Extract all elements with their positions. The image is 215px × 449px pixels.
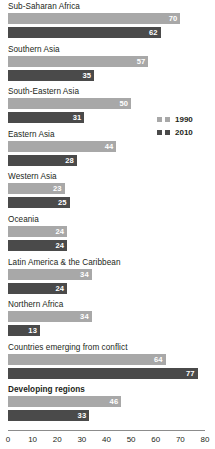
x-tick-label: 60 bbox=[151, 435, 160, 444]
legend-item-2010: 2010 bbox=[157, 127, 215, 140]
bar-2010: 31 bbox=[8, 112, 84, 123]
bar-group: Countries emerging from conflict6477 bbox=[0, 343, 215, 386]
bar-2010: 25 bbox=[8, 197, 70, 208]
bar-2010: 62 bbox=[8, 27, 161, 38]
bar-value-label: 35 bbox=[83, 70, 92, 81]
bar-value-label: 24 bbox=[55, 226, 64, 237]
x-tick-label: 20 bbox=[53, 435, 62, 444]
legend-swatch bbox=[157, 130, 162, 135]
bar-group: Latin America & the Caribbean3424 bbox=[0, 258, 215, 301]
x-axis-line bbox=[8, 430, 205, 431]
category-label: Eastern Asia bbox=[8, 130, 55, 139]
bar-value-label: 64 bbox=[154, 354, 163, 365]
bar-group: Sub-Saharan Africa7062 bbox=[0, 2, 215, 45]
bar-value-label: 44 bbox=[105, 141, 114, 152]
bar-1990: 23 bbox=[8, 183, 65, 194]
bar-value-label: 24 bbox=[55, 240, 64, 251]
legend-label: 1990 bbox=[175, 114, 193, 126]
bar-value-label: 33 bbox=[78, 410, 87, 421]
bar-value-label: 31 bbox=[73, 112, 82, 123]
bar-group: Oceania2424 bbox=[0, 215, 215, 258]
category-label: Developing regions bbox=[8, 385, 85, 394]
bar-value-label: 25 bbox=[58, 197, 67, 208]
bar-chart: Sub-Saharan Africa7062Southern Asia5735S… bbox=[0, 0, 215, 449]
bar-2010: 13 bbox=[8, 325, 40, 336]
bar-1990: 46 bbox=[8, 396, 121, 407]
bar-value-label: 46 bbox=[110, 396, 119, 407]
bar-2010: 24 bbox=[8, 283, 67, 294]
category-label: Southern Asia bbox=[8, 45, 60, 54]
bar-group: Southern Asia5735 bbox=[0, 45, 215, 88]
category-label: Sub-Saharan Africa bbox=[8, 2, 80, 11]
category-label: South-Eastern Asia bbox=[8, 87, 79, 96]
bar-2010: 33 bbox=[8, 410, 89, 421]
x-tick-label: 30 bbox=[77, 435, 86, 444]
category-label: Latin America & the Caribbean bbox=[8, 258, 121, 267]
bar-value-label: 34 bbox=[80, 269, 89, 280]
bar-value-label: 34 bbox=[80, 311, 89, 322]
category-label: Oceania bbox=[8, 215, 39, 224]
bar-2010: 77 bbox=[8, 368, 198, 379]
bar-value-label: 50 bbox=[119, 98, 128, 109]
legend-swatch bbox=[165, 130, 170, 135]
x-tick-label: 80 bbox=[201, 435, 210, 444]
category-label: Western Asia bbox=[8, 172, 57, 181]
category-label: Northern Africa bbox=[8, 300, 63, 309]
bar-group: Northern Africa3413 bbox=[0, 300, 215, 343]
category-label: Countries emerging from conflict bbox=[8, 343, 127, 352]
bar-1990: 34 bbox=[8, 269, 92, 280]
legend-item-1990: 1990 bbox=[157, 114, 215, 127]
x-tick-label: 40 bbox=[102, 435, 111, 444]
bar-1990: 44 bbox=[8, 141, 116, 152]
bar-2010: 35 bbox=[8, 70, 94, 81]
bar-1990: 34 bbox=[8, 311, 92, 322]
x-tick-label: 70 bbox=[176, 435, 185, 444]
bar-value-label: 77 bbox=[186, 368, 195, 379]
x-tick-label: 50 bbox=[127, 435, 136, 444]
x-tick-label: 0 bbox=[6, 435, 10, 444]
bar-value-label: 13 bbox=[28, 325, 37, 336]
bar-value-label: 70 bbox=[169, 13, 178, 24]
bar-value-label: 28 bbox=[65, 155, 74, 166]
bar-1990: 64 bbox=[8, 354, 166, 365]
bar-2010: 24 bbox=[8, 240, 67, 251]
bar-1990: 70 bbox=[8, 13, 180, 24]
x-tick-label: 10 bbox=[28, 435, 37, 444]
bar-1990: 57 bbox=[8, 56, 148, 67]
bar-value-label: 57 bbox=[137, 56, 146, 67]
bar-value-label: 24 bbox=[55, 283, 64, 294]
chart-legend: 19902010 bbox=[157, 114, 215, 140]
bar-group: Western Asia2325 bbox=[0, 172, 215, 215]
bar-group: Developing regions4633 bbox=[0, 385, 215, 428]
bar-1990: 24 bbox=[8, 226, 67, 237]
legend-swatch bbox=[157, 117, 162, 122]
legend-label: 2010 bbox=[175, 127, 193, 139]
legend-swatch bbox=[165, 117, 170, 122]
bar-value-label: 23 bbox=[53, 183, 62, 194]
bar-value-label: 62 bbox=[149, 27, 158, 38]
bar-1990: 50 bbox=[8, 98, 131, 109]
bar-2010: 28 bbox=[8, 155, 77, 166]
